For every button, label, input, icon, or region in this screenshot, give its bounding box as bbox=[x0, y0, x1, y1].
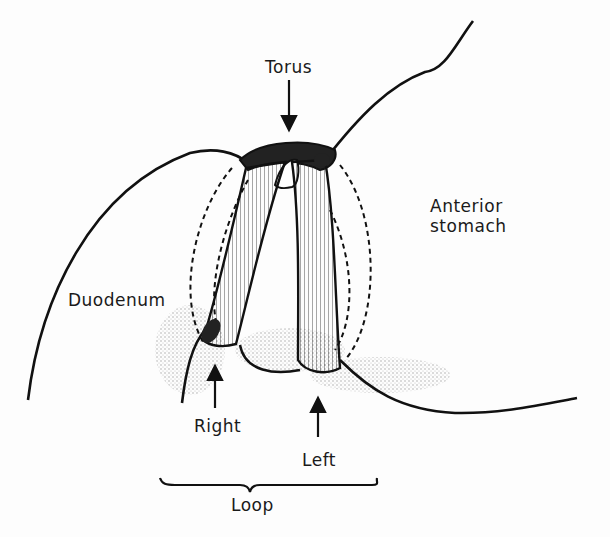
torus-arrow bbox=[282, 80, 296, 130]
stomach-upper-outline bbox=[325, 21, 473, 160]
left-arrow bbox=[311, 398, 325, 437]
label-left: Left bbox=[302, 450, 336, 470]
label-anterior: Anterior bbox=[430, 196, 503, 216]
diagram-canvas: Torus Anterior stomach Duodenum Right Le… bbox=[0, 0, 610, 537]
left-limb bbox=[292, 160, 340, 372]
label-loop: Loop bbox=[231, 495, 274, 515]
label-stomach: stomach bbox=[430, 216, 507, 236]
right-limb bbox=[203, 162, 285, 346]
label-duodenum: Duodenum bbox=[68, 290, 166, 310]
label-right: Right bbox=[194, 416, 241, 436]
loop-brace bbox=[160, 478, 377, 492]
left-limb-end bbox=[314, 153, 330, 167]
label-torus: Torus bbox=[265, 57, 312, 77]
